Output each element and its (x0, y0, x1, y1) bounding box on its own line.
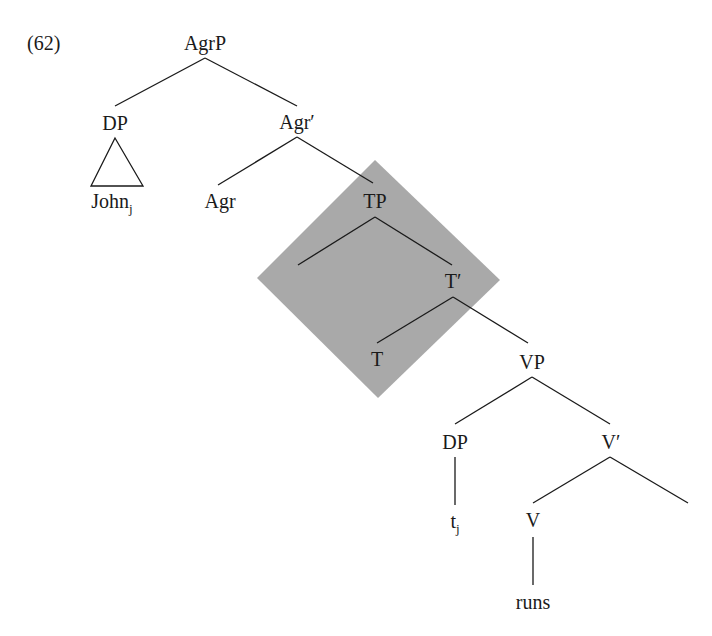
node-tp: TP (363, 190, 386, 212)
tree-edge (297, 137, 373, 183)
node-vbar: V′ (602, 431, 621, 453)
tree-edge (533, 457, 610, 503)
node-vp: VP (519, 351, 545, 373)
syntax-tree-diagram: (62) AgrPDPAgr′JohnjAgrTPT′TVPDPV′tjVrun… (0, 0, 712, 636)
tree-edge (610, 457, 688, 503)
node-john: Johnj (91, 190, 132, 216)
tree-edge (453, 297, 528, 343)
tree-edge (532, 377, 610, 424)
node-agrbar: Agr′ (279, 111, 314, 134)
node-agr: Agr (204, 190, 235, 213)
tree-edge (205, 58, 297, 106)
tree-edge (455, 377, 532, 424)
dp-triangle (91, 138, 143, 186)
example-number: (62) (27, 32, 60, 55)
node-tbar: T′ (445, 270, 462, 292)
node-v: V (526, 509, 541, 531)
node-t: T (371, 348, 383, 370)
tree-edge (115, 58, 205, 106)
node-runs: runs (516, 591, 551, 613)
node-agrp: AgrP (184, 32, 226, 55)
node-dp2: DP (442, 431, 468, 453)
node-trace: tj (450, 510, 459, 536)
tree-edge (218, 137, 297, 185)
node-dp1: DP (102, 112, 128, 134)
